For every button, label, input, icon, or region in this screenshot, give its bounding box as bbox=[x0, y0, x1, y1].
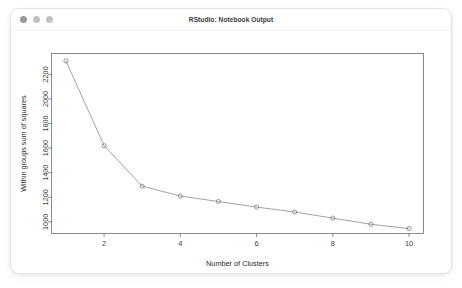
x-tick-label: 6 bbox=[255, 239, 259, 248]
x-tick-label: 2 bbox=[102, 239, 106, 248]
plot-area: 1000120014001600180020002200 246810 Numb… bbox=[11, 31, 452, 274]
y-axis-labels: 1000120014001600180020002200 bbox=[41, 66, 50, 230]
x-axis-title: Number of Clusters bbox=[206, 259, 269, 268]
rstudio-notebook-output-window: RStudio: Notebook Output 100012001400160… bbox=[10, 8, 452, 274]
x-axis-ticks bbox=[104, 234, 409, 238]
y-axis-title: Within groups sum of squares bbox=[19, 95, 28, 192]
window-titlebar[interactable]: RStudio: Notebook Output bbox=[11, 9, 451, 31]
y-tick-label: 1600 bbox=[41, 140, 50, 156]
series-points bbox=[64, 59, 411, 231]
y-tick-label: 1400 bbox=[41, 165, 50, 181]
y-tick-label: 2200 bbox=[41, 66, 50, 82]
x-tick-label: 8 bbox=[331, 239, 335, 248]
series-line bbox=[66, 61, 409, 229]
y-tick-label: 1800 bbox=[41, 115, 50, 131]
plot-frame bbox=[52, 54, 424, 234]
x-axis-labels: 246810 bbox=[102, 239, 413, 248]
screen: RStudio: Notebook Output 100012001400160… bbox=[0, 0, 462, 288]
y-tick-label: 1000 bbox=[41, 214, 50, 230]
elbow-plot: 1000120014001600180020002200 246810 Numb… bbox=[11, 31, 452, 274]
x-tick-label: 4 bbox=[178, 239, 182, 248]
y-tick-label: 1200 bbox=[41, 189, 50, 205]
y-tick-label: 2000 bbox=[41, 91, 50, 107]
x-tick-label: 10 bbox=[405, 239, 413, 248]
window-title: RStudio: Notebook Output bbox=[11, 9, 451, 31]
